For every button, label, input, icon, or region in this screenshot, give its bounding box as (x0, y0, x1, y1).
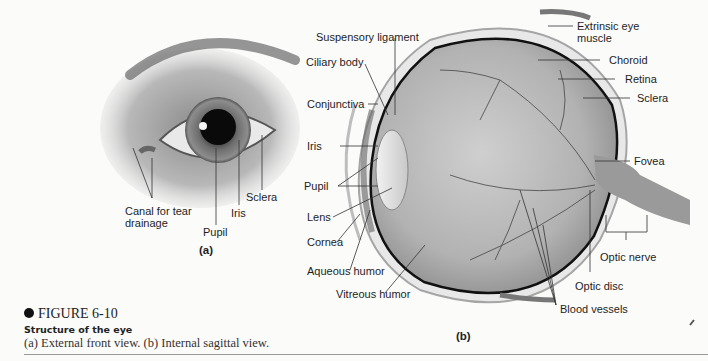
panel-a-caption: (a) (199, 244, 213, 256)
label-b-pupil: Pupil (304, 180, 328, 192)
label-ciliary-body: Ciliary body (306, 56, 363, 68)
figure-number-text: FIGURE 6-10 (38, 306, 118, 321)
stray-mark (690, 320, 694, 325)
label-aqueous-humor: Aqueous humor (307, 265, 385, 277)
label-optic-disc: Optic disc (575, 280, 623, 292)
label-suspensory-ligament: Suspensory ligament (316, 31, 419, 43)
label-vitreous-humor: Vitreous humor (336, 288, 410, 300)
figure-number: FIGURE 6-10 (24, 306, 118, 322)
label-canal-tear-drainage: Canal for tear drainage (125, 205, 192, 229)
caption-divider (24, 354, 708, 355)
label-extrinsic-eye-muscle: Extrinsic eye muscle (577, 20, 639, 44)
label-a-pupil: Pupil (203, 226, 227, 238)
label-conjunctiva: Conjunctiva (307, 98, 364, 110)
figure-title: Structure of the eye (24, 324, 132, 335)
label-optic-nerve: Optic nerve (600, 251, 656, 263)
label-fovea: Fovea (634, 155, 665, 167)
label-cornea: Cornea (307, 236, 343, 248)
label-canal-line1: Canal for tear (125, 205, 192, 217)
label-a-iris: Iris (231, 207, 246, 219)
label-lens: Lens (307, 211, 331, 223)
bullet-icon (24, 308, 34, 318)
label-b-sclera: Sclera (637, 92, 668, 104)
label-choroid: Choroid (609, 54, 648, 66)
label-blood-vessels: Blood vessels (560, 303, 628, 315)
label-canal-line2: drainage (125, 217, 168, 229)
label-b-iris: Iris (307, 140, 322, 152)
label-extrinsic-line2: muscle (577, 32, 612, 44)
label-extrinsic-line1: Extrinsic eye (577, 20, 639, 32)
label-a-sclera: Sclera (246, 191, 277, 203)
panel-b-caption: (b) (456, 330, 471, 342)
label-retina: Retina (625, 73, 657, 85)
external-eye-drawing (100, 43, 300, 208)
figure-description: (a) External front view. (b) Internal sa… (24, 336, 269, 351)
